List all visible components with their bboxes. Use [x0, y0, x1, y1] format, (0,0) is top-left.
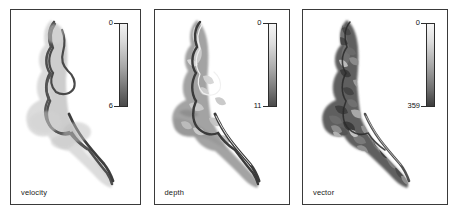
- three-panel-figure: 0 6 velocity: [0, 0, 454, 216]
- colorbar-vector-gradient: [426, 23, 435, 107]
- colorbar-depth-max-label: 11: [254, 102, 262, 110]
- panel-depth: 0 11 depth: [154, 9, 290, 205]
- panel-label-velocity: velocity: [21, 189, 47, 197]
- colorbar-depth: 0 11: [235, 19, 281, 111]
- colorbar-velocity-max-label: 6: [109, 102, 113, 110]
- colorbar-depth-gradient: [268, 23, 277, 107]
- panel-vector: 0 359 vector: [302, 9, 448, 205]
- panel-velocity: 0 6 velocity: [10, 9, 141, 205]
- colorbar-velocity: 0 6: [86, 19, 132, 111]
- colorbar-vector-max-label: 359: [407, 102, 420, 110]
- panel-label-depth: depth: [165, 189, 185, 197]
- colorbar-depth-tick-bottom: [263, 106, 268, 107]
- colorbar-vector-tick-bottom: [421, 106, 426, 107]
- colorbar-vector-min-label: 0: [416, 19, 420, 27]
- panel-label-vector: vector: [313, 189, 334, 197]
- colorbar-velocity-min-label: 0: [109, 19, 113, 27]
- colorbar-velocity-gradient: [119, 23, 128, 107]
- colorbar-depth-min-label: 0: [257, 19, 261, 27]
- colorbar-velocity-tick-bottom: [114, 106, 119, 107]
- colorbar-vector: 0 359: [393, 19, 439, 111]
